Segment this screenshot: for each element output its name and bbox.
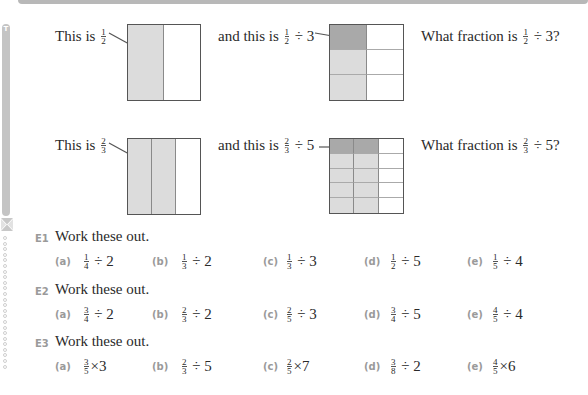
item-label: (c) xyxy=(263,256,278,267)
exercise-instruction: Work these out. xyxy=(55,333,149,350)
item-label: (e) xyxy=(467,361,483,372)
two-thirds-diagram xyxy=(127,138,201,215)
exercise-number: E3 xyxy=(35,338,49,349)
item-label: (c) xyxy=(263,361,278,372)
item-expression: 34 ÷ 5 xyxy=(389,305,421,324)
row2-and-this-is-label: and this is 23 ÷ 5 xyxy=(218,136,314,155)
row1-this-is-label: This is 12 xyxy=(55,27,108,46)
item-label: (e) xyxy=(467,256,483,267)
row2-this-is-label: This is 23 xyxy=(55,136,108,155)
top-border-bar xyxy=(18,0,588,4)
item-label: (a) xyxy=(55,256,71,267)
exercise-number: E2 xyxy=(35,286,49,297)
sidebar-tab-bar xyxy=(2,24,10,216)
item-expression: 45×6 xyxy=(491,357,515,376)
two-thirds-divided-by-five-diagram xyxy=(329,138,404,214)
item-label: (d) xyxy=(364,361,380,372)
sidebar-dot-column xyxy=(3,236,9,370)
fraction: 23 xyxy=(523,137,528,154)
item-expression: 34 ÷ 2 xyxy=(82,305,114,324)
fraction: 12 xyxy=(285,28,290,45)
item-label: (a) xyxy=(55,309,71,320)
item-expression: 45 ÷ 4 xyxy=(491,305,523,324)
item-expression: 13 ÷ 3 xyxy=(285,252,317,271)
item-expression: 25×7 xyxy=(285,357,309,376)
exercise-number: E1 xyxy=(35,233,49,244)
half-divided-by-three-diagram xyxy=(329,24,404,101)
row2-question: What fraction is 23 ÷ 5? xyxy=(421,136,560,155)
fraction: 12 xyxy=(523,28,528,45)
item-label: (b) xyxy=(152,309,168,320)
fraction: 23 xyxy=(285,137,290,154)
item-expression: 23 ÷ 5 xyxy=(180,357,212,376)
item-label: (d) xyxy=(364,309,380,320)
item-expression: 38 ÷ 2 xyxy=(389,357,421,376)
fraction: 23 xyxy=(101,137,106,154)
item-expression: 12 ÷ 5 xyxy=(389,252,421,271)
item-label: (a) xyxy=(55,361,71,372)
item-label: (b) xyxy=(152,256,168,267)
item-label: (c) xyxy=(263,309,278,320)
item-expression: 35×3 xyxy=(82,357,106,376)
exercise-instruction: Work these out. xyxy=(55,281,149,298)
exercise-instruction: Work these out. xyxy=(55,228,149,245)
item-expression: 25 ÷ 3 xyxy=(285,305,317,324)
item-expression: 23 ÷ 2 xyxy=(180,305,212,324)
item-expression: 15 ÷ 4 xyxy=(491,252,523,271)
half-diagram xyxy=(127,24,201,101)
fraction: 12 xyxy=(101,28,106,45)
row1-and-this-is-label: and this is 12 ÷ 3 xyxy=(218,27,314,46)
exercise-marker-icon xyxy=(1,218,13,231)
item-expression: 14 ÷ 2 xyxy=(82,252,114,271)
item-label: (b) xyxy=(152,361,168,372)
item-expression: 13 ÷ 2 xyxy=(180,252,212,271)
sidebar-tab-letter: T xyxy=(2,25,10,33)
row1-question: What fraction is 12 ÷ 3? xyxy=(421,27,560,46)
item-label: (e) xyxy=(467,309,483,320)
item-label: (d) xyxy=(364,256,380,267)
